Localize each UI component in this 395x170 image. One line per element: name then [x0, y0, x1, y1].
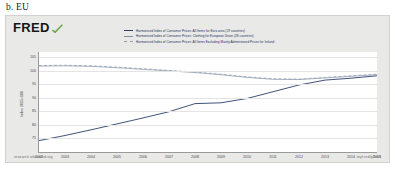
fred-logo[interactable]: FRED — [13, 21, 63, 34]
y-axis-tick-label: 75 — [32, 136, 36, 140]
fred-logo-text: FRED — [13, 21, 50, 34]
gridline — [39, 84, 377, 85]
legend-item[interactable]: Harmonized Index of Consumer Prices: All… — [124, 39, 274, 45]
gridline — [39, 98, 377, 99]
legend-label-series-2: Harmonized Index of Consumer Prices: All… — [136, 40, 274, 44]
gridline — [39, 111, 377, 112]
gridline — [39, 71, 377, 72]
legend-swatch-series-1 — [124, 36, 133, 37]
series-line — [39, 65, 377, 79]
gridline — [39, 138, 377, 139]
y-axis-title: Index 2015=100 — [20, 91, 24, 117]
series-line — [39, 76, 377, 141]
fred-swoosh-icon — [52, 24, 63, 33]
y-axis-tick-label: 80 — [32, 123, 36, 127]
plot-area-wrapper: Index 2015=100 1051009590858075200220032… — [6, 46, 389, 162]
y-axis-tick-label: 100 — [30, 69, 36, 73]
legend-label-series-0: Harmonized Index of Consumer Prices: All… — [136, 29, 245, 33]
footer-permalink[interactable]: myf.red/g/fvb8 — [357, 155, 381, 159]
plot-axes: 1051009590858075200220032004200520062007… — [38, 52, 377, 153]
legend-label-series-1: Harmonized Index of Consumer Prices: Clo… — [136, 34, 254, 38]
y-axis-tick-label: 95 — [32, 82, 36, 86]
legend-swatch-series-0 — [124, 30, 133, 31]
chart-legend: Harmonized Index of Consumer Prices: All… — [124, 28, 274, 45]
chart-lines — [39, 52, 377, 152]
chart-header: FRED Harmonized Index of Consumer Prices… — [6, 16, 389, 46]
gridline — [39, 57, 377, 58]
figure-caption: b. EU — [0, 0, 395, 15]
chart-footer: research.stlouisfed.org myf.red/g/fvb8 — [6, 151, 389, 159]
fred-chart-card: FRED Harmonized Index of Consumer Prices… — [5, 15, 390, 163]
y-axis-tick-label: 85 — [32, 109, 36, 113]
footer-source: research.stlouisfed.org — [14, 155, 53, 159]
gridline — [39, 125, 377, 126]
y-axis-tick-label: 90 — [32, 96, 36, 100]
y-axis-tick-label: 105 — [30, 55, 36, 59]
legend-swatch-series-2 — [124, 41, 133, 42]
